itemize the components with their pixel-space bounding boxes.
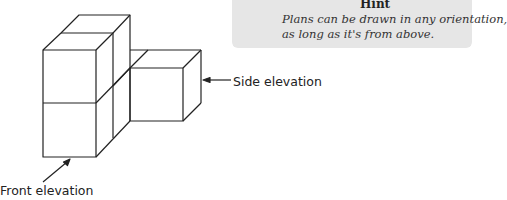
side-elevation-label: Side elevation <box>233 74 322 89</box>
side-elevation-arrow <box>203 78 231 83</box>
front-elevation-label: Front elevation <box>0 183 93 198</box>
front-elevation-arrow <box>43 159 70 182</box>
side-cube <box>130 50 201 121</box>
front-column <box>43 33 130 157</box>
